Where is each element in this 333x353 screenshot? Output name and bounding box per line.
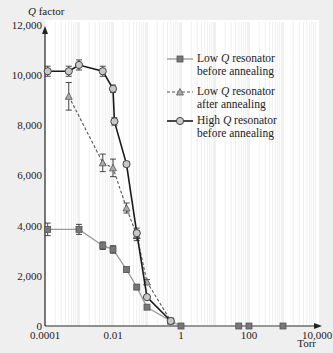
- circle-marker-icon: [123, 161, 130, 168]
- legend-label: High Q resonator: [197, 114, 277, 127]
- circle-marker-icon: [99, 68, 106, 75]
- square-marker-icon: [110, 246, 116, 252]
- legend-label: after annealing: [197, 98, 266, 111]
- circle-marker-icon: [109, 85, 116, 92]
- square-marker-icon: [236, 323, 242, 329]
- square-marker-icon: [177, 56, 183, 62]
- circle-marker-icon: [44, 68, 51, 75]
- square-marker-icon: [45, 226, 51, 232]
- y-tick-label: 8,000: [17, 119, 42, 131]
- y-tick-label: 4,000: [17, 220, 42, 232]
- square-marker-icon: [280, 323, 286, 329]
- square-marker-icon: [144, 304, 150, 310]
- chart-svg: 02,0004,0006,0008,00010,00012,0000.00010…: [0, 0, 333, 353]
- y-tick-label: 6,000: [17, 169, 42, 181]
- y-tick-label: 12,000: [12, 19, 43, 31]
- chart: 02,0004,0006,0008,00010,00012,0000.00010…: [0, 0, 333, 353]
- x-tick-label: 0.0001: [30, 329, 60, 341]
- square-marker-icon: [178, 323, 184, 329]
- square-marker-icon: [246, 323, 252, 329]
- legend-label: before annealing: [197, 65, 274, 78]
- circle-marker-icon: [133, 230, 140, 237]
- x-tick-label: 100: [241, 329, 258, 341]
- legend-label: Low Q resonator: [197, 85, 275, 97]
- square-marker-icon: [134, 284, 140, 290]
- circle-marker-icon: [65, 68, 72, 75]
- circle-marker-icon: [75, 61, 82, 68]
- y-axis-label: Q factor: [28, 5, 65, 17]
- circle-marker-icon: [176, 117, 183, 124]
- square-marker-icon: [76, 226, 82, 232]
- circle-marker-icon: [143, 294, 150, 301]
- y-tick-label: 2,000: [17, 270, 42, 282]
- y-tick-label: 10,000: [12, 69, 43, 81]
- x-tick-label: 0.01: [103, 329, 122, 341]
- legend-label: Low Q resonator: [197, 52, 275, 64]
- x-tick-label: 1: [178, 329, 184, 341]
- x-axis-label: Torr: [297, 337, 316, 349]
- circle-marker-icon: [111, 118, 118, 125]
- square-marker-icon: [100, 243, 106, 249]
- circle-marker-icon: [167, 317, 174, 324]
- square-marker-icon: [124, 267, 130, 273]
- legend-label: before annealing: [197, 127, 274, 140]
